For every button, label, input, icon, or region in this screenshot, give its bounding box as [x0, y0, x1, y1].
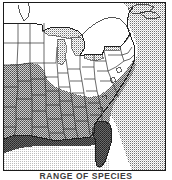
figure-caption-text: RANGE OF SPECIES — [0, 172, 172, 180]
map-plate — [3, 2, 166, 171]
map-svg — [4, 3, 165, 170]
lake-michigan — [57, 39, 66, 65]
distribution-map-figure: RANGE OF SPECIES — [0, 0, 172, 180]
figure-caption: RANGE OF SPECIES — [0, 172, 172, 180]
gulf-of-mexico — [4, 145, 110, 170]
